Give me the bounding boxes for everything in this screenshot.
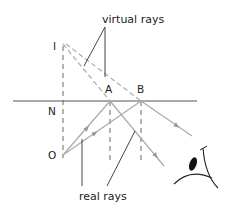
virtual-ray-1 [63,44,110,101]
real-rays-label: real rays [79,190,127,203]
eye-icon [174,146,218,188]
point-A-label: A [105,83,113,95]
virtual-rays-pointer-1 [84,27,105,66]
real-rays-pointer-2 [107,131,135,186]
virtual-ray-2 [66,44,141,101]
point-N-label: N [48,105,56,117]
point-I-label: I [53,40,56,52]
reflected-ray-2 [141,101,192,136]
virtual-rays-label: virtual rays [102,13,164,26]
point-O-label: O [48,149,56,161]
incident-ray-2 [63,101,141,155]
plane-mirror-reflection-diagram: virtual rays real rays I N O A B [0,0,225,210]
point-B-label: B [137,83,144,95]
